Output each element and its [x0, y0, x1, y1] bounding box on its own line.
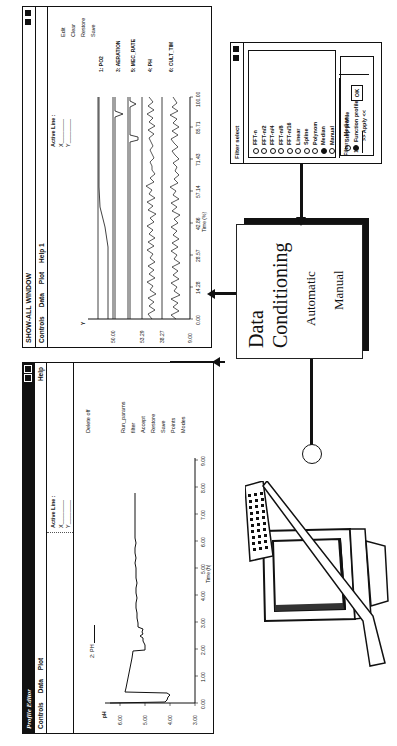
radio-selected-icon — [353, 145, 359, 151]
menu-data[interactable]: Data — [35, 679, 46, 693]
active-line-label: Active Line : — [50, 114, 56, 147]
maximize-icon[interactable] — [24, 365, 32, 373]
menu-controls[interactable]: Controls — [35, 702, 46, 729]
profile-editor-titlebar: Profile Editor — [23, 363, 35, 733]
dc-title-2: Conditioning — [269, 242, 291, 348]
x-tick: 2.00 — [200, 645, 206, 655]
radio-icon — [287, 148, 293, 154]
x-tick: 6.00 — [200, 537, 206, 547]
arrowhead-icon — [212, 357, 220, 367]
x-tick: 57.14 — [195, 185, 201, 198]
restore-button[interactable]: Restore — [78, 18, 88, 37]
x-label: X — [58, 524, 64, 528]
mode-automatic[interactable]: Automatic — [303, 271, 319, 326]
modes-button[interactable]: Modes — [178, 402, 188, 434]
y-tick: 3.00 — [192, 715, 198, 725]
filter-button[interactable]: filter — [128, 402, 138, 434]
x-tick: 9.00 — [200, 456, 206, 466]
cable-dc-to-computer — [310, 359, 313, 446]
cable-connector — [302, 444, 322, 464]
monitor-icon — [263, 529, 388, 621]
x-tick: 71.43 — [195, 153, 201, 166]
dialog-title: Filter select — [234, 126, 240, 159]
trace-label: 6: CULT_TIM — [168, 42, 174, 72]
trace-label: 5: MEC_RATE — [130, 39, 136, 72]
filter-select-titlebar: Filter select — [231, 43, 244, 163]
active-line-label: Active Line : — [50, 495, 56, 528]
filter-option[interactable]: Manual — [328, 54, 337, 154]
mode-manual[interactable]: Manual — [331, 270, 347, 310]
save-button[interactable]: Save — [88, 18, 98, 37]
filter-option[interactable]: Spline — [302, 54, 311, 154]
trace-label: 1: PO2 — [98, 56, 104, 72]
x-tick: 8.00 — [200, 483, 206, 493]
show-all-window: SHOW-ALL WINDOW Controls Data Plot Help … — [22, 6, 212, 348]
radio-icon — [270, 148, 276, 154]
apply-button[interactable]: >> Apply << — [360, 61, 369, 151]
x-tick: 28.57 — [195, 249, 201, 262]
y-tick: 4.00 — [167, 715, 173, 725]
filter-option[interactable]: Polynom — [311, 54, 320, 154]
y-tick: 38.27 — [159, 330, 165, 343]
radio-icon — [329, 148, 335, 154]
x-tick: 85.71 — [195, 121, 201, 134]
dc-title-1: Data — [245, 310, 267, 348]
computer-illustration — [245, 481, 395, 681]
radio-icon — [312, 148, 318, 154]
minimize-icon[interactable] — [24, 18, 32, 26]
restore-button[interactable]: Restore — [148, 402, 158, 434]
x-tick: 1.00 — [200, 672, 206, 682]
accept-button[interactable]: Accept — [138, 402, 148, 434]
radio-icon — [304, 148, 310, 154]
menu-controls[interactable]: Controls — [36, 316, 47, 343]
y-label: Y — [65, 143, 71, 147]
show-all-titlebar: SHOW-ALL WINDOW — [23, 7, 36, 347]
y-tick: 53.29 — [139, 330, 145, 343]
save-button[interactable]: Save — [158, 402, 168, 434]
radio-selected-icon — [321, 148, 327, 154]
x-label: X — [58, 143, 64, 147]
delete-toggle[interactable]: Delete off — [85, 410, 91, 433]
maximize-icon[interactable] — [24, 9, 32, 17]
filter-option[interactable]: FFT-n/8 — [277, 54, 286, 154]
filter-option[interactable]: FFT-n/2 — [260, 54, 269, 154]
filter-option[interactable]: Linear — [294, 54, 303, 154]
step-profile-option[interactable]: Step profile — [343, 61, 352, 151]
profile-options-box: Step profile Function profile >> Apply <… — [340, 56, 374, 156]
menu-help[interactable]: Help — [35, 367, 46, 381]
y-tick: 5.00 — [142, 715, 148, 725]
multi-trace-plot[interactable]: Y 50.00 53.29 38.27 9.00 0.00 14.28 28.5… — [78, 77, 208, 347]
profile-editor-menubar: Controls Data Plot Help — [35, 363, 47, 733]
filter-option[interactable]: FFT-n/4 — [268, 54, 277, 154]
y-tick: 9.00 — [187, 333, 193, 343]
menu-data[interactable]: Data — [36, 293, 47, 307]
y-label: Y — [65, 524, 71, 528]
radio-icon — [295, 148, 301, 154]
radio-icon — [345, 145, 351, 151]
edit-button[interactable]: Edit — [58, 18, 68, 37]
menu-plot[interactable]: Plot — [35, 658, 46, 670]
maximize-icon[interactable] — [232, 45, 240, 53]
points-button[interactable]: Points — [168, 402, 178, 434]
filter-option-selected[interactable]: Median — [319, 54, 328, 154]
window-title: SHOW-ALL WINDOW — [25, 273, 32, 343]
y-axis-symbol: Y — [80, 322, 86, 325]
trace-label: 3: AERATION — [115, 41, 121, 72]
minimize-icon[interactable] — [232, 54, 240, 62]
menu-help[interactable]: Help 1 — [36, 243, 47, 263]
minimize-icon[interactable] — [24, 374, 32, 382]
y-tick: 50.00 — [110, 330, 116, 343]
ph-plot[interactable]: 2: PH pH — [75, 433, 211, 733]
function-profile-option[interactable]: Function profile — [352, 61, 361, 151]
clear-button[interactable]: Clear — [68, 18, 78, 37]
radio-icon — [278, 148, 284, 154]
arrow-filter-to-dc — [300, 163, 303, 218]
x-axis-label: Time (%) — [201, 212, 207, 232]
multi-trace-svg — [78, 77, 208, 347]
filter-option[interactable]: FFT-n — [251, 54, 260, 154]
profile-editor-side-buttons: Run_params filter Accept Restore Save Po… — [118, 402, 188, 434]
filter-option[interactable]: FFT-n/16 — [285, 54, 294, 154]
menu-plot[interactable]: Plot — [36, 272, 47, 284]
run-params-button[interactable]: Run_params — [118, 402, 128, 434]
radio-icon — [261, 148, 267, 154]
